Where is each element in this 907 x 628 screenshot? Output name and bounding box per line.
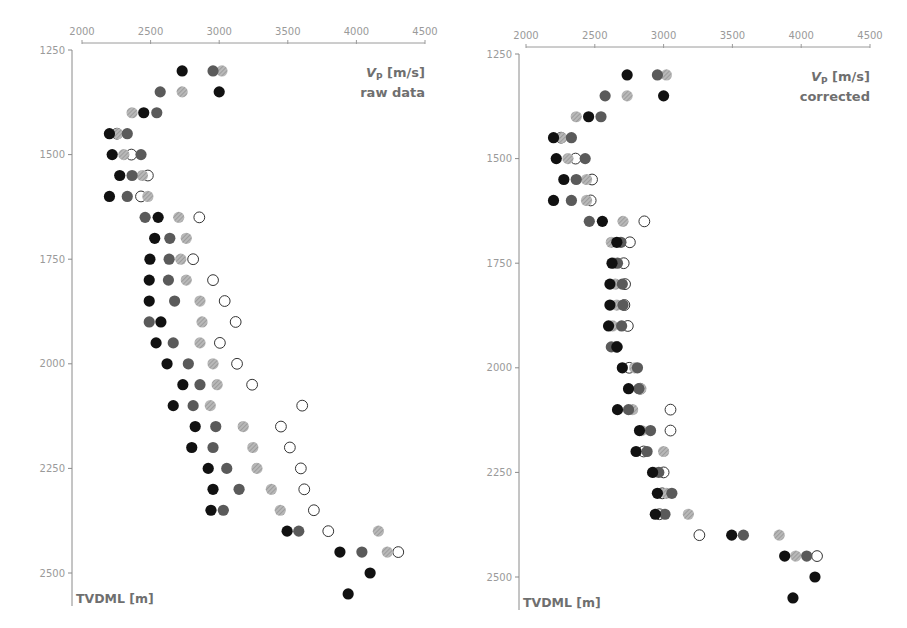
data-point-dark-grey	[126, 170, 137, 181]
data-point-black	[149, 233, 160, 244]
data-point-black	[144, 275, 155, 286]
data-point-black	[809, 571, 820, 582]
data-point-dark-grey	[135, 149, 146, 160]
data-point-black	[144, 295, 155, 306]
data-point-dark-grey	[659, 509, 670, 520]
data-point-black	[150, 337, 161, 348]
data-point-light-grey	[212, 379, 223, 390]
left-chart-panel: 2000250030003500400045001250150017502000…	[0, 0, 460, 628]
data-point-dark-grey	[580, 153, 591, 164]
data-point-black	[558, 174, 569, 185]
data-point-open	[308, 505, 319, 516]
data-point-dark-grey	[801, 550, 812, 561]
y-tick-label: 2500	[487, 572, 512, 583]
data-point-light-grey	[683, 509, 694, 520]
data-point-black	[104, 191, 115, 202]
data-point-dark-grey	[652, 69, 663, 80]
x-tick-label: 2000	[69, 26, 94, 37]
data-point-black	[138, 107, 149, 118]
data-point-black	[205, 505, 216, 516]
y-tick-label: 1500	[40, 149, 65, 160]
data-point-black	[597, 216, 608, 227]
data-point-dark-grey	[595, 111, 606, 122]
data-point-dark-grey	[616, 320, 627, 331]
data-point-dark-grey	[207, 65, 218, 76]
data-point-light-grey	[126, 107, 137, 118]
y-tick-label: 2500	[40, 568, 65, 579]
data-point-black	[652, 488, 663, 499]
x-tick-label: 3000	[206, 26, 231, 37]
data-point-black	[207, 484, 218, 495]
data-point-black	[623, 383, 634, 394]
data-point-black	[144, 254, 155, 265]
data-point-black	[153, 212, 164, 223]
data-point-open	[323, 526, 334, 537]
y-axis: 125015001750200022502500	[40, 45, 72, 607]
data-point-dark-grey	[566, 132, 577, 143]
data-point-light-grey	[181, 275, 192, 286]
y-tick-label: 1500	[487, 153, 512, 164]
x-tick-label: 4500	[412, 26, 437, 37]
data-point-dark-grey	[140, 212, 151, 223]
data-point-black	[583, 111, 594, 122]
data-point-dark-grey	[164, 254, 175, 265]
data-point-dark-grey	[183, 358, 194, 369]
data-point-black	[186, 442, 197, 453]
data-point-light-grey	[181, 233, 192, 244]
x-tick-label: 2500	[582, 30, 607, 41]
y-tick-label: 1250	[487, 49, 512, 60]
y-axis-title: TVDML [m]	[523, 595, 601, 610]
data-point-dark-grey	[207, 442, 218, 453]
data-point-black	[104, 128, 115, 139]
data-point-open	[812, 551, 823, 562]
data-point-black	[658, 90, 669, 101]
x-tick-label: 4000	[344, 26, 369, 37]
data-point-black	[282, 526, 293, 537]
data-point-open	[230, 317, 241, 328]
data-point-dark-grey	[356, 546, 367, 557]
data-point-black	[611, 341, 622, 352]
data-point-black	[617, 362, 628, 373]
data-point-black	[114, 170, 125, 181]
data-point-dark-grey	[617, 279, 628, 290]
right-scatter-plot: 2000250030003500400045001250150017502000…	[447, 0, 907, 628]
data-point-dark-grey	[600, 90, 611, 101]
data-point-black	[787, 592, 798, 603]
data-point-open	[284, 442, 295, 453]
data-point-light-grey	[175, 254, 186, 265]
y-tick-label: 1750	[40, 254, 65, 265]
data-point-open	[694, 530, 705, 541]
data-point-dark-grey	[233, 484, 244, 495]
y-axis-title: TVDML [m]	[76, 591, 154, 606]
data-point-black	[334, 546, 345, 557]
data-point-black	[548, 195, 559, 206]
data-point-light-grey	[373, 526, 384, 537]
data-point-black	[647, 467, 658, 478]
data-point-dark-grey	[666, 488, 677, 499]
data-point-dark-grey	[617, 299, 628, 310]
data-point-open	[194, 212, 205, 223]
data-point-light-grey	[205, 400, 216, 411]
data-point-light-grey	[207, 358, 218, 369]
data-point-black	[779, 550, 790, 561]
data-points	[548, 69, 823, 603]
data-point-light-grey	[571, 111, 582, 122]
data-point-dark-grey	[163, 275, 174, 286]
y-tick-label: 1250	[40, 45, 65, 56]
chart-subtitle: corrected	[800, 89, 870, 104]
x-tick-label: 4000	[788, 30, 813, 41]
data-point-black	[604, 279, 615, 290]
data-point-open	[232, 358, 243, 369]
data-point-open	[188, 254, 199, 265]
data-point-black	[603, 320, 614, 331]
data-point-light-grey	[196, 316, 207, 327]
data-point-light-grey	[194, 295, 205, 306]
data-point-open	[665, 425, 676, 436]
data-point-light-grey	[173, 212, 184, 223]
data-point-black	[622, 69, 633, 80]
data-point-light-grey	[617, 216, 628, 227]
data-point-black	[551, 153, 562, 164]
data-point-black	[107, 149, 118, 160]
data-point-open	[665, 404, 676, 415]
data-point-black	[604, 299, 615, 310]
